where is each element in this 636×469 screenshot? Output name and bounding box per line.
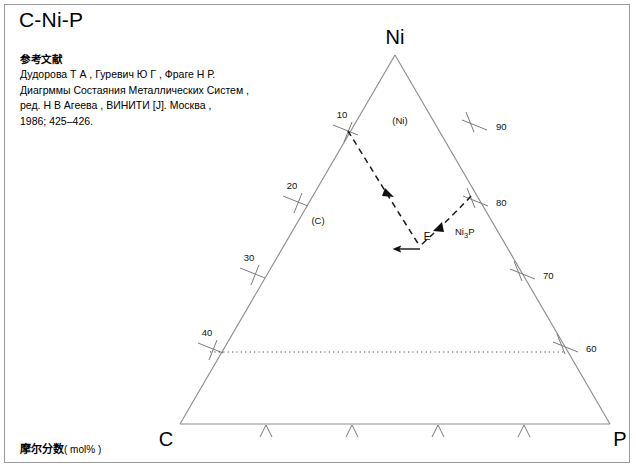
point-label-eutectic: E [424,231,431,242]
vertex-label-c: C [159,428,173,450]
phase-label-ni: (Ni) [392,115,407,126]
phase-label-ni3p: Ni3P [455,226,475,240]
tick-label-left-20: 20 [287,180,298,191]
boundary-curve-left [348,131,419,245]
ternary-plot: Ni C P 10 20 30 40 90 [0,0,636,469]
tick-bottom-40 [346,425,358,437]
vertex-label-ni: Ni [386,26,405,48]
vertex-label-p: P [613,428,626,450]
phase-label-c: (C) [311,215,324,226]
phase-label-ni3p-tail: P [468,226,474,237]
tick-bottom-80 [518,425,530,437]
tick-label-right-80: 80 [496,197,507,208]
tick-label-left-40: 40 [202,327,213,338]
phase-label-ni3p-base: Ni [455,226,464,237]
tick-label-left-30: 30 [244,252,255,263]
tick-label-right-60: 60 [586,343,597,354]
tick-right-90: 90 [462,112,507,132]
tick-left-40: 40 [198,327,223,360]
tick-bottom-20 [260,425,272,437]
tick-bottom-60 [432,425,444,437]
tick-label-right-90: 90 [496,121,507,132]
tick-label-left-10: 10 [337,109,348,120]
tick-label-right-70: 70 [543,270,554,281]
tick-left-30: 30 [240,252,265,285]
boundary-curve-right-arrow [433,222,444,232]
diagram-page: C-Ni-P 参考文献 Дудорова Т А , Гуревич Ю Г ,… [0,0,636,469]
tick-left-20: 20 [283,180,308,213]
triangle-edge-left [180,55,395,424]
